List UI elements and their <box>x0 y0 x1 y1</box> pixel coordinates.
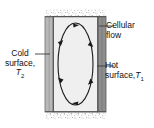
label-hot-surface-line2: surface,T1 <box>105 71 144 84</box>
label-cellular-flow: Cellular flow <box>106 21 135 40</box>
label-hot-surface-text: surface, <box>105 70 135 80</box>
cold-surface-wall <box>45 17 53 113</box>
label-hot-surface: Hot surface,T1 <box>105 61 144 84</box>
label-cold-surface-subscript: 2 <box>21 73 24 79</box>
label-cellular-flow-line2: flow <box>106 31 135 41</box>
label-cold-surface-line3: T2 <box>2 68 38 81</box>
label-cold-surface: Cold surface, T2 <box>2 49 38 81</box>
cellular-flow-diagram: Cellular flow Hot surface,T1 Cold surfac… <box>0 0 154 128</box>
label-hot-surface-subscript: 1 <box>140 75 143 81</box>
top-insulation-band <box>45 10 106 18</box>
cavity-interior <box>53 17 98 113</box>
